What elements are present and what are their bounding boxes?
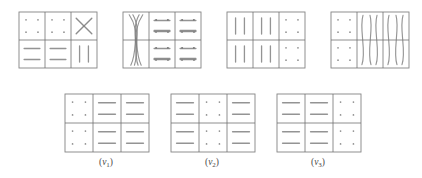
matrix-3: [226, 11, 306, 69]
dot-glyph: [349, 19, 351, 21]
cell-glyph-group: [99, 132, 116, 144]
cell-glyph-group: [236, 46, 245, 62]
dot-glyph: [85, 101, 87, 103]
dot-glyph: [285, 47, 287, 49]
dot-glyph: [181, 47, 183, 49]
matrix-nu3-svg: [276, 93, 362, 153]
dot-glyph: [206, 143, 208, 145]
dot-glyph: [72, 101, 74, 103]
matrix-nu1: [64, 93, 150, 153]
cell-glyph-group: [236, 18, 245, 34]
dot-glyph: [25, 31, 27, 33]
cell-glyph-group: [337, 47, 351, 61]
dot-glyph: [297, 59, 299, 61]
dot-glyph: [206, 114, 208, 116]
dot-glyph: [193, 19, 195, 21]
dot-glyph: [285, 31, 287, 33]
dot-glyph: [219, 130, 221, 132]
cell-glyph-group: [127, 103, 144, 115]
dot-glyph: [340, 130, 342, 132]
cell-glyph-group: [24, 48, 40, 59]
matrix-nu3: [276, 93, 362, 153]
dot-glyph: [353, 114, 355, 116]
cell-glyph-group: [262, 18, 271, 34]
cell-glyph-group: [51, 19, 65, 33]
cell-glyph-group: [311, 132, 328, 144]
dot-glyph: [353, 101, 355, 103]
cell-glyph-group: [50, 48, 66, 59]
matrix-nu2-svg: [170, 93, 256, 153]
dot-glyph: [72, 143, 74, 145]
dot-glyph: [85, 143, 87, 145]
cell-glyph-group: [340, 101, 355, 115]
dot-glyph: [155, 19, 157, 21]
cell-glyph-group: [311, 103, 328, 115]
dot-glyph: [63, 31, 65, 33]
matrix-4: [330, 11, 410, 69]
dot-glyph: [51, 19, 53, 21]
dot-glyph: [51, 31, 53, 33]
cell-glyph-group: [80, 46, 89, 62]
caption-nu2: (ν2): [170, 157, 254, 169]
cell-glyph-group: [177, 103, 194, 115]
dot-glyph: [72, 130, 74, 132]
dot-glyph: [167, 47, 169, 49]
cell-glyph-group: [337, 19, 351, 33]
dot-glyph: [155, 47, 157, 49]
dot-glyph: [337, 19, 339, 21]
dot-glyph: [349, 47, 351, 49]
caption-subscript: 3: [318, 161, 322, 169]
cell-glyph-group: [72, 130, 87, 144]
cell-glyph-group: [233, 132, 250, 144]
cell-glyph-group: [283, 132, 300, 144]
cell-glyph-group: [76, 18, 92, 34]
dot-glyph: [337, 47, 339, 49]
dot-glyph: [37, 19, 39, 21]
dot-glyph: [297, 47, 299, 49]
glyph-matrix-figure: (ν1) (ν2) (ν3): [0, 0, 422, 178]
cell-glyph-group: [206, 101, 221, 115]
dot-glyph: [206, 130, 208, 132]
dot-glyph: [181, 19, 183, 21]
dot-glyph: [37, 31, 39, 33]
dot-glyph: [219, 101, 221, 103]
dot-glyph: [25, 19, 27, 21]
caption-subscript: 2: [212, 161, 216, 169]
dot-glyph: [219, 114, 221, 116]
dot-glyph: [219, 143, 221, 145]
dot-glyph: [206, 101, 208, 103]
cell-glyph-group: [262, 46, 271, 62]
dot-glyph: [353, 130, 355, 132]
dot-glyph: [297, 19, 299, 21]
caption-subscript: 1: [106, 161, 110, 169]
dot-glyph: [285, 59, 287, 61]
cell-glyph-group: [127, 132, 144, 144]
caption-nu3: (ν3): [276, 157, 360, 169]
dot-glyph: [337, 31, 339, 33]
cell-glyph-group: [72, 101, 87, 115]
matrix-3-svg: [226, 11, 306, 69]
dot-glyph: [337, 59, 339, 61]
matrix-1: [18, 11, 98, 69]
dot-glyph: [297, 31, 299, 33]
cell-glyph-group: [285, 19, 299, 33]
cell-glyph-group: [340, 130, 355, 144]
cell-glyph-group: [283, 103, 300, 115]
caption-nu1: (ν1): [64, 157, 148, 169]
matrix-2-svg: [122, 11, 202, 69]
dot-glyph: [72, 114, 74, 116]
matrix-nu1-svg: [64, 93, 150, 153]
cell-glyph-group: [285, 47, 299, 61]
matrix-nu2: [170, 93, 256, 153]
dot-glyph: [349, 31, 351, 33]
cell-glyph-group: [233, 103, 250, 115]
dot-glyph: [63, 19, 65, 21]
dot-glyph: [285, 19, 287, 21]
dot-glyph: [340, 101, 342, 103]
dot-glyph: [340, 143, 342, 145]
cell-glyph-group: [99, 103, 116, 115]
cell-glyph-group: [177, 132, 194, 144]
dot-glyph: [167, 19, 169, 21]
matrix-4-svg: [330, 11, 410, 69]
matrix-2: [122, 11, 202, 69]
